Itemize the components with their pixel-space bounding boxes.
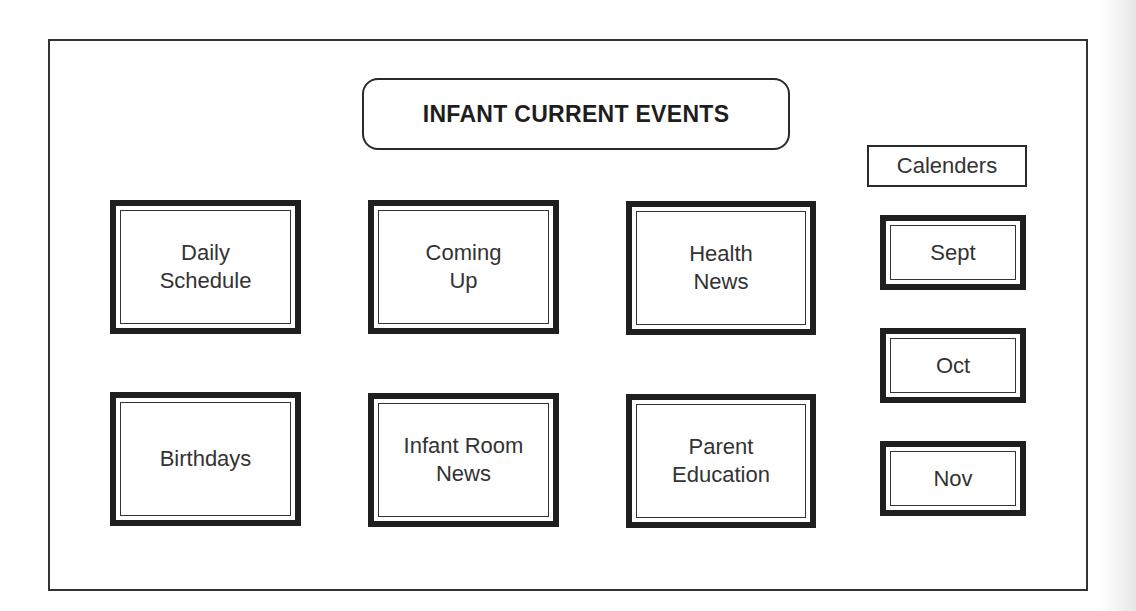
section-label: Coming Up [378, 210, 549, 324]
calendar-month-label: Nov [890, 451, 1016, 506]
calendar-nov: Nov [880, 441, 1026, 516]
section-label: Daily Schedule [120, 210, 291, 324]
section-label: Health News [636, 211, 806, 325]
calendar-sept: Sept [880, 215, 1026, 290]
section-label: Infant Room News [378, 403, 549, 517]
page-edge-shadow [1100, 0, 1136, 611]
calendars-heading: Calenders [867, 145, 1027, 187]
section-parent-education: Parent Education [626, 394, 816, 528]
section-label: Birthdays [120, 402, 291, 516]
section-label: Parent Education [636, 404, 806, 518]
section-daily-schedule: Daily Schedule [110, 200, 301, 334]
board-title-text: INFANT CURRENT EVENTS [423, 101, 730, 128]
calendar-month-label: Oct [890, 338, 1016, 393]
calendars-heading-text: Calenders [897, 153, 997, 179]
section-infant-room-news: Infant Room News [368, 393, 559, 527]
calendar-oct: Oct [880, 328, 1026, 403]
board-title: INFANT CURRENT EVENTS [362, 78, 790, 150]
section-coming-up: Coming Up [368, 200, 559, 334]
section-health-news: Health News [626, 201, 816, 335]
calendar-month-label: Sept [890, 225, 1016, 280]
section-birthdays: Birthdays [110, 392, 301, 526]
